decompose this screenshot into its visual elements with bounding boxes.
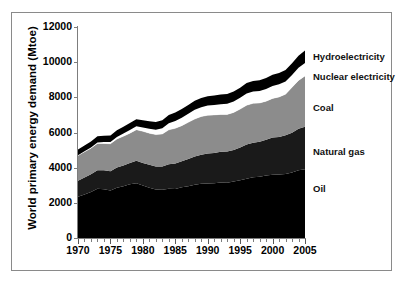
x-tick-minor [162,239,163,242]
x-tick-minor [84,239,85,242]
y-tick-label: 6000 [28,126,72,138]
x-tick-minor [227,239,228,242]
x-tick-minor [221,239,222,242]
x-tick-minor [130,239,131,242]
series-label: Oil [313,183,326,194]
x-tick-minor [234,239,235,242]
series-label: Coal [313,102,334,113]
x-tick-minor [91,239,92,242]
y-tick-label: 0 [28,231,72,243]
x-tick-minor [286,239,287,242]
x-tick-label: 2005 [285,244,325,256]
x-tick-minor [266,239,267,242]
x-tick-minor [253,239,254,242]
stacked-area-plot [78,27,305,238]
x-tick-minor [195,239,196,242]
x-tick-minor [214,239,215,242]
x-tick-minor [292,239,293,242]
x-tick-minor [182,239,183,242]
x-tick-minor [156,239,157,242]
x-tick-minor [299,239,300,242]
x-tick-minor [117,239,118,242]
x-tick-minor [104,239,105,242]
x-tick-minor [279,239,280,242]
plot-svg [78,27,305,238]
x-tick-minor [188,239,189,242]
y-tick-label: 12000 [28,20,72,32]
series-label: Nuclear electricity [313,71,395,82]
x-tick-minor [123,239,124,242]
x-tick-minor [260,239,261,242]
x-tick-minor [136,239,137,242]
y-tick-label: 10000 [28,55,72,67]
series-label: Natural gas [313,146,365,157]
x-tick-minor [201,239,202,242]
x-tick-minor [149,239,150,242]
x-tick-minor [97,239,98,242]
series-label: Hydroelectricity [313,51,385,62]
x-tick-minor [169,239,170,242]
y-tick-label: 2000 [28,196,72,208]
y-tick-label: 8000 [28,90,72,102]
y-tick-label: 4000 [28,161,72,173]
x-tick-minor [247,239,248,242]
chart-figure: World primary energy demand (Mtoe) 02000… [0,0,406,286]
